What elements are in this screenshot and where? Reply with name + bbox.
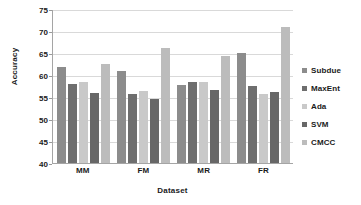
legend-item-svm[interactable]: SVM [302, 120, 341, 129]
legend-swatch-icon [302, 104, 307, 109]
x-axis-title: Dataset [52, 186, 293, 195]
y-tick-mark [49, 10, 52, 11]
legend-swatch-icon [302, 86, 307, 91]
legend-label: CMCC [311, 138, 335, 147]
bar-cmcc-mm[interactable] [101, 64, 110, 163]
y-tick-label: 65 [26, 50, 48, 59]
bar-chart: Accuracy 4045505560657075 MMFMMRFR Datas… [0, 0, 361, 205]
bar-ada-mm[interactable] [79, 82, 88, 163]
legend-item-maxent[interactable]: MaxEnt [302, 84, 341, 93]
y-tick-label: 40 [26, 160, 48, 169]
bar-svm-mr[interactable] [210, 90, 219, 163]
y-tick-mark [49, 98, 52, 99]
legend-swatch-icon [302, 122, 307, 127]
bar-maxent-mm[interactable] [68, 84, 77, 163]
y-tick-mark [49, 76, 52, 77]
y-tick-mark [49, 120, 52, 121]
legend-item-subdue[interactable]: Subdue [302, 66, 341, 75]
legend: SubdueMaxEntAdaSVMCMCC [302, 66, 341, 147]
bar-subdue-mm[interactable] [57, 67, 66, 163]
y-tick-label: 75 [26, 6, 48, 15]
y-tick-label: 50 [26, 116, 48, 125]
legend-label: Ada [311, 102, 326, 111]
bar-groups [53, 10, 293, 163]
y-tick-mark [49, 164, 52, 165]
bar-svm-fm[interactable] [150, 99, 159, 163]
bar-group-mm [56, 10, 111, 163]
legend-swatch-icon [302, 68, 307, 73]
x-tick-label: FR [258, 166, 269, 175]
bar-group-fr [236, 10, 291, 163]
bar-cmcc-fm[interactable] [161, 48, 170, 163]
y-axis-title: Accuracy [10, 27, 19, 107]
bar-group-mr [176, 10, 231, 163]
bar-maxent-fm[interactable] [128, 94, 137, 163]
legend-swatch-icon [302, 140, 307, 145]
bar-ada-mr[interactable] [199, 82, 208, 163]
bar-ada-fm[interactable] [139, 91, 148, 163]
x-tick-label: MM [76, 166, 90, 175]
plot-area [52, 10, 293, 164]
bar-svm-mm[interactable] [90, 93, 99, 163]
x-tick-label: FM [138, 166, 150, 175]
y-tick-mark [49, 142, 52, 143]
bar-maxent-fr[interactable] [248, 86, 257, 163]
legend-item-cmcc[interactable]: CMCC [302, 138, 341, 147]
y-tick-label: 45 [26, 138, 48, 147]
bar-subdue-mr[interactable] [177, 85, 186, 163]
legend-label: Subdue [311, 66, 341, 75]
y-tick-mark [49, 32, 52, 33]
y-tick-mark [49, 54, 52, 55]
bar-svm-fr[interactable] [270, 92, 279, 163]
bar-subdue-fm[interactable] [117, 71, 126, 163]
bar-cmcc-fr[interactable] [281, 27, 290, 163]
legend-label: SVM [311, 120, 329, 129]
bar-cmcc-mr[interactable] [221, 56, 230, 163]
bar-maxent-mr[interactable] [188, 82, 197, 163]
legend-item-ada[interactable]: Ada [302, 102, 341, 111]
y-tick-label: 55 [26, 94, 48, 103]
bar-group-fm [116, 10, 171, 163]
legend-label: MaxEnt [311, 84, 340, 93]
x-tick-label: MR [197, 166, 210, 175]
y-tick-label: 70 [26, 28, 48, 37]
y-tick-label: 60 [26, 72, 48, 81]
y-axis-tick-labels: 4045505560657075 [26, 0, 48, 205]
bar-subdue-fr[interactable] [237, 53, 246, 163]
x-axis-tick-labels: MMFMMRFR [52, 166, 293, 175]
bar-ada-fr[interactable] [259, 94, 268, 163]
